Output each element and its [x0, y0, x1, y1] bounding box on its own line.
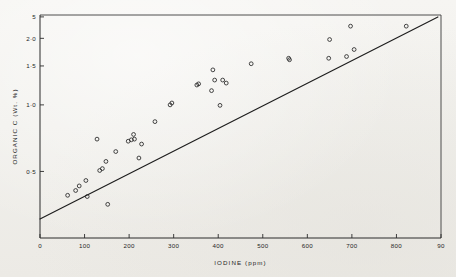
data-point — [74, 189, 78, 193]
scatter-plot-svg: 010020030040050060070080090 0·51·01·52·0… — [0, 0, 456, 277]
data-point — [153, 120, 157, 124]
y-tick-label: 1·5 — [26, 62, 36, 69]
y-tick-label: 0·5 — [26, 168, 36, 175]
x-tick-label: 500 — [257, 242, 268, 249]
x-axis-ticks — [40, 234, 441, 238]
data-point — [345, 55, 349, 59]
data-point — [213, 78, 217, 82]
x-tick-label: 400 — [213, 242, 224, 249]
data-point — [249, 62, 253, 66]
y-tick-label: 5 — [32, 13, 36, 20]
data-point — [95, 137, 99, 141]
x-tick-label: 700 — [346, 242, 357, 249]
data-point — [106, 202, 110, 206]
data-point — [349, 24, 353, 28]
x-axis-title: IODINE (ppm) — [214, 259, 266, 266]
x-tick-label: 800 — [391, 242, 402, 249]
y-axis-tick-labels: 0·51·01·52·05 — [26, 13, 36, 175]
data-point — [114, 150, 118, 154]
data-point — [404, 24, 408, 28]
data-point — [104, 160, 108, 164]
x-tick-label: 100 — [79, 242, 90, 249]
data-point — [328, 38, 332, 42]
x-tick-label: 600 — [302, 242, 313, 249]
data-point — [210, 89, 214, 93]
data-point — [211, 68, 215, 72]
x-axis-tick-labels: 010020030040050060070080090 — [38, 242, 445, 249]
data-point — [352, 48, 356, 52]
x-tick-label: 90 — [437, 242, 445, 249]
data-point — [84, 179, 88, 183]
frame-path — [40, 15, 441, 238]
data-point — [224, 81, 228, 85]
figure-container: 010020030040050060070080090 0·51·01·52·0… — [0, 0, 456, 277]
y-tick-label: 1·0 — [26, 101, 36, 108]
data-point — [221, 78, 225, 82]
data-point — [218, 103, 222, 107]
regression-line — [40, 17, 438, 219]
data-point — [77, 184, 81, 188]
y-axis-title: ORGANIC C (Wt. %) — [11, 88, 18, 164]
x-tick-label: 300 — [168, 242, 179, 249]
data-point — [66, 193, 70, 197]
data-point — [132, 133, 136, 137]
y-axis-ticks — [40, 17, 44, 172]
data-point — [327, 56, 331, 60]
data-point-markers — [66, 24, 408, 206]
plot-frame — [40, 15, 441, 238]
data-point — [140, 142, 144, 146]
x-tick-label: 200 — [123, 242, 134, 249]
data-point — [137, 156, 141, 160]
y-tick-label: 2·0 — [26, 35, 36, 42]
x-tick-label: 0 — [38, 242, 42, 249]
